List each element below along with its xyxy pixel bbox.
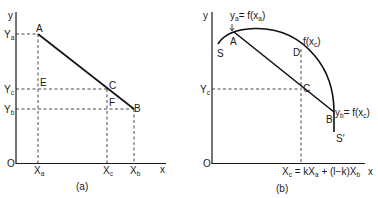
panel-a: y x O Ya Yc Yb Xa Xc Xb A C B E F (a) (4, 10, 166, 192)
origin-label: O (7, 158, 15, 169)
point-c-label: C (303, 83, 310, 94)
diagram-canvas: y x O Ya Yc Yb Xa Xc Xb A C B E F (a) y (0, 0, 378, 198)
point-d-label: D (293, 47, 300, 58)
point-a-label: A (36, 23, 43, 34)
origin-label: O (203, 158, 211, 169)
x-tick-xc: Xc (103, 165, 114, 177)
point-b-label: B (326, 114, 333, 125)
y-tick-yc: Yc (200, 84, 211, 96)
caption-a: (a) (76, 181, 88, 192)
x-tick-xb: Xb (130, 165, 141, 177)
point-e-label: E (40, 77, 47, 88)
panel-b: y x O Yc Xc = kXa + (l−k)Xb A S D C B S′… (200, 10, 373, 194)
x-tick-xa: Xa (34, 165, 45, 177)
y-tick-ya: Ya (4, 29, 15, 41)
y-axis-label: y (8, 10, 13, 21)
annotation-fxc: f(xc) (303, 36, 321, 48)
x-axis-label: x (160, 164, 165, 175)
point-f-label: F (109, 97, 115, 108)
point-c-label: C (109, 80, 116, 91)
point-a-label: A (230, 36, 237, 47)
y-tick-yb: Yb (4, 104, 15, 116)
y-axis-label: y (203, 10, 208, 21)
x-formula-xc: Xc = kXa + (l−k)Xb (282, 166, 360, 178)
annotation-yb: yb= f(xc) (335, 107, 370, 119)
point-s-label: S (217, 48, 224, 59)
y-tick-yc: Yc (4, 84, 15, 96)
caption-b: (b) (276, 183, 288, 194)
x-axis-label: x (368, 166, 373, 177)
point-b-label: B (134, 103, 141, 114)
annotation-ya: ya= f(xa) (230, 10, 265, 22)
segment-ab (38, 34, 134, 109)
point-s-prime-label: S′ (336, 133, 345, 144)
